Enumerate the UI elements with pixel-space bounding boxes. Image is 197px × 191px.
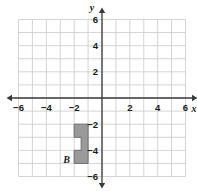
x-tick-label: −4: [41, 102, 53, 113]
x-tick-label: 4: [155, 102, 161, 113]
y-tick-label: 6: [93, 14, 98, 25]
shape-label-b: B: [62, 154, 70, 165]
x-axis-label: x: [191, 103, 197, 114]
x-tick-label: −6: [13, 102, 24, 113]
y-axis-label: y: [89, 2, 95, 13]
shape-labels: B: [62, 154, 70, 165]
x-tick-label: −2: [69, 102, 80, 113]
y-tick-label: −2: [87, 119, 98, 130]
y-tick-label: 4: [93, 40, 99, 51]
y-tick-label: −4: [87, 145, 99, 156]
figure-background: [0, 0, 197, 191]
coordinate-plane-figure: −6−4−2246642−2−4−6 x y B: [0, 0, 197, 191]
y-tick-label: −6: [87, 171, 98, 182]
x-tick-label: 6: [183, 102, 188, 113]
y-tick-label: 2: [93, 66, 98, 77]
x-tick-label: 2: [127, 102, 132, 113]
